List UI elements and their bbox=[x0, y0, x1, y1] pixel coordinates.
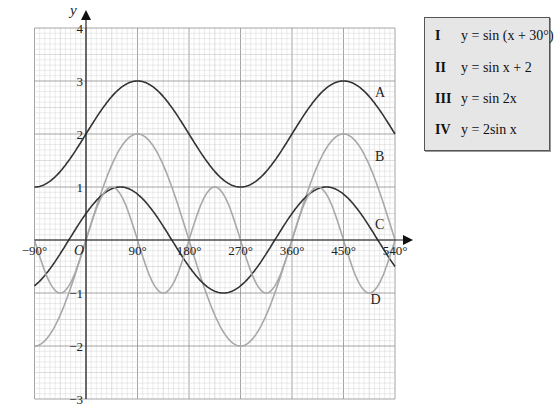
y-tick-label: −3 bbox=[69, 392, 83, 407]
x-tick-label: 360° bbox=[280, 243, 305, 258]
x-tick-label: 450° bbox=[331, 243, 356, 258]
y-tick-label: −1 bbox=[69, 286, 83, 301]
x-tick-label: 540° bbox=[383, 243, 408, 258]
legend-entry-3: IIIy = sin 2x bbox=[435, 91, 517, 107]
x-tick-label: 90° bbox=[128, 243, 146, 258]
y-tick-label: 1 bbox=[77, 180, 84, 195]
y-tick-label: 4 bbox=[77, 21, 84, 36]
curve-label-C: C bbox=[375, 217, 384, 232]
legend-entry-4: IVy = 2sin x bbox=[435, 122, 517, 138]
x-tick-label: −90° bbox=[22, 243, 48, 258]
y-tick-label: 2 bbox=[77, 127, 84, 142]
y-axis-title: y bbox=[68, 2, 77, 18]
y-tick-label: 3 bbox=[77, 74, 84, 89]
curve-label-D: D bbox=[370, 292, 380, 307]
y-axis-arrow-icon bbox=[81, 10, 91, 20]
curve-label-A: A bbox=[375, 85, 386, 100]
x-tick-label: 180° bbox=[177, 243, 202, 258]
y-tick-label: −2 bbox=[69, 339, 83, 354]
legend-entry-1: Iy = sin (x + 30°) bbox=[435, 28, 554, 44]
curve-label-B: B bbox=[375, 149, 384, 164]
equation-legend: Iy = sin (x + 30°) IIy = sin x + 2 IIIy … bbox=[424, 17, 550, 151]
origin-label: O bbox=[74, 243, 84, 258]
graph-paper-grid bbox=[35, 28, 396, 399]
x-tick-label: 270° bbox=[228, 243, 253, 258]
legend-entry-2: IIy = sin x + 2 bbox=[435, 60, 532, 76]
